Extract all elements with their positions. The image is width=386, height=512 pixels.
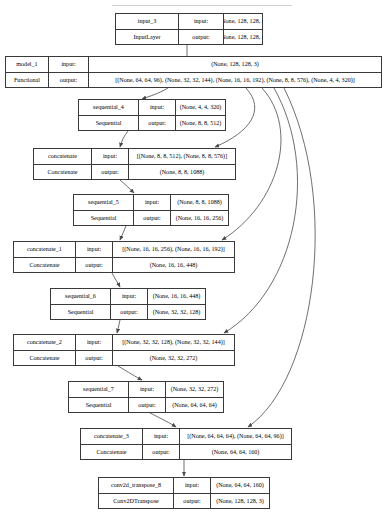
edge-sequential_5-to-concatenate_1	[120, 226, 126, 240]
node-model_1: model_1input:(None, 128, 128, 3)Function…	[5, 56, 382, 88]
node-class-name: InputLayer	[116, 30, 179, 45]
node-class-name: Sequential	[74, 211, 134, 226]
input-label: input:	[76, 242, 113, 257]
node-input_3: input_3input:[(None, 128, 128, 3)]InputL…	[115, 13, 263, 45]
node-layer-name: concatenate_3	[81, 429, 143, 444]
output-label: output:	[139, 116, 176, 131]
node-class-name: Sequential	[51, 305, 111, 320]
output-shape: [(None, 128, 128, 3)]	[224, 30, 262, 45]
node-concatenate_2: concatenate_2input:[(None, 32, 32, 128),…	[13, 334, 235, 366]
cropped-toolbar-sliver	[0, 0, 386, 7]
input-label: input:	[111, 289, 148, 304]
node-class-name: Sequential	[69, 398, 129, 413]
node-layer-name: concatenate_1	[14, 242, 76, 257]
node-concatenate: concatenateinput:[(None, 8, 8, 512), (No…	[33, 148, 236, 180]
node-sequential_4: sequential_4input:(None, 4, 4, 320)Seque…	[78, 99, 226, 131]
node-row-output: Concatenateoutput:(None, 8, 8, 1088)	[34, 165, 235, 180]
node-layer-name: sequential_4	[79, 100, 139, 115]
output-label: output:	[179, 30, 224, 45]
node-sequential_6: sequential_6input:(None, 16, 16, 448)Seq…	[50, 288, 206, 320]
node-row-output: Sequentialoutput:(None, 16, 16, 256)	[74, 211, 228, 226]
node-layer-name: sequential_5	[74, 195, 134, 210]
node-row-input: conv2d_transpose_8input:(None, 64, 64, 1…	[99, 478, 269, 494]
node-row-input: concatenate_3input:[(None, 64, 64, 64), …	[81, 429, 291, 445]
edge-concatenate_2-to-sequential_7	[118, 366, 142, 380]
input-shape: (None, 128, 128, 3)	[89, 57, 381, 72]
output-label: output:	[129, 398, 166, 413]
edge-model_1-to-sequential_4	[142, 88, 168, 99]
node-conv2d_transpose_8: conv2d_transpose_8input:(None, 64, 64, 1…	[98, 477, 270, 509]
output-shape: (None, 8, 8, 1088)	[129, 165, 235, 180]
node-layer-name: model_1	[6, 57, 49, 72]
edge-concatenate-to-sequential_5	[120, 180, 134, 193]
cropped-toolbar-rule	[112, 5, 292, 6]
node-layer-name: conv2d_transpose_8	[99, 478, 174, 493]
output-label: output:	[111, 305, 148, 320]
input-label: input:	[76, 335, 113, 350]
node-row-output: Sequentialoutput:(None, 32, 32, 128)	[51, 305, 205, 320]
node-sequential_7: sequential_7input:(None, 32, 32, 272)Seq…	[68, 381, 224, 413]
node-row-input: sequential_5input:(None, 8, 8, 1088)	[74, 195, 228, 211]
node-class-name: Sequential	[79, 116, 139, 131]
output-shape: (None, 16, 16, 448)	[113, 258, 234, 273]
node-row-output: Concatenateoutput:(None, 16, 16, 448)	[14, 258, 234, 273]
node-row-output: Functionaloutput:[(None, 64, 64, 96), (N…	[6, 73, 381, 88]
node-row-output: Sequentialoutput:(None, 8, 8, 512)	[79, 116, 225, 131]
output-label: output:	[143, 445, 180, 460]
output-label: output:	[76, 258, 113, 273]
input-label: input:	[174, 478, 211, 493]
node-row-input: concatenate_2input:[(None, 32, 32, 128),…	[14, 335, 234, 351]
edge-model_1-to-concatenate_3	[248, 88, 315, 427]
node-row-input: concatenate_1input:[(None, 16, 16, 256),…	[14, 242, 234, 258]
node-class-name: Concatenate	[34, 165, 92, 180]
model-architecture-diagram: input_3input:[(None, 128, 128, 3)]InputL…	[0, 0, 386, 512]
edge-sequential_4-to-concatenate	[120, 131, 128, 147]
output-label: output:	[134, 211, 171, 226]
node-row-input: input_3input:[(None, 128, 128, 3)]	[116, 14, 262, 30]
input-shape: (None, 16, 16, 448)	[148, 289, 205, 304]
edge-concatenate_1-to-sequential_6	[112, 273, 120, 287]
output-shape: (None, 32, 32, 128)	[148, 305, 205, 320]
node-row-output: Concatenateoutput:(None, 32, 32, 272)	[14, 351, 234, 366]
input-label: input:	[179, 14, 224, 29]
input-label: input:	[49, 57, 89, 72]
node-row-input: model_1input:(None, 128, 128, 3)	[6, 57, 381, 73]
output-shape: [(None, 64, 64, 96), (None, 32, 32, 144)…	[89, 73, 381, 88]
input-shape: (None, 32, 32, 272)	[166, 382, 223, 397]
input-label: input:	[92, 149, 129, 164]
input-label: input:	[134, 195, 171, 210]
output-label: output:	[174, 494, 211, 509]
output-shape: (None, 16, 16, 256)	[171, 211, 228, 226]
output-shape: (None, 8, 8, 512)	[176, 116, 225, 131]
node-class-name: Functional	[6, 73, 49, 88]
input-label: input:	[139, 100, 176, 115]
node-row-input: concatenateinput:[(None, 8, 8, 512), (No…	[34, 149, 235, 165]
input-shape: (None, 8, 8, 1088)	[171, 195, 228, 210]
node-class-name: Concatenate	[81, 445, 143, 460]
node-row-output: Conv2DTransposeoutput:(None, 128, 128, 3…	[99, 494, 269, 509]
node-row-input: sequential_4input:(None, 4, 4, 320)	[79, 100, 225, 116]
output-shape: (None, 64, 64, 160)	[180, 445, 291, 460]
output-shape: (None, 128, 128, 3)	[211, 494, 269, 509]
node-row-output: InputLayeroutput:[(None, 128, 128, 3)]	[116, 30, 262, 45]
output-label: output:	[49, 73, 89, 88]
edge-sequential_6-to-concatenate_2	[117, 320, 120, 333]
node-concatenate_3: concatenate_3input:[(None, 64, 64, 64), …	[80, 428, 292, 460]
input-shape: (None, 4, 4, 320)	[176, 100, 225, 115]
node-row-output: Concatenateoutput:(None, 64, 64, 160)	[81, 445, 291, 460]
node-sequential_5: sequential_5input:(None, 8, 8, 1088)Sequ…	[73, 194, 229, 226]
node-layer-name: sequential_6	[51, 289, 111, 304]
node-row-output: Sequentialoutput:(None, 64, 64, 64)	[69, 398, 223, 413]
node-layer-name: sequential_7	[69, 382, 129, 397]
input-shape: [(None, 8, 8, 512), (None, 8, 8, 576)]	[129, 149, 235, 164]
node-layer-name: concatenate	[34, 149, 92, 164]
input-label: input:	[129, 382, 166, 397]
node-layer-name: input_3	[116, 14, 179, 29]
input-shape: [(None, 128, 128, 3)]	[224, 14, 262, 29]
output-shape: (None, 64, 64, 64)	[166, 398, 223, 413]
node-class-name: Concatenate	[14, 351, 76, 366]
edge-model_1-to-concatenate_2	[224, 88, 298, 333]
node-row-input: sequential_7input:(None, 32, 32, 272)	[69, 382, 223, 398]
input-shape: [(None, 16, 16, 256), (None, 16, 16, 192…	[113, 242, 234, 257]
node-row-input: sequential_6input:(None, 16, 16, 448)	[51, 289, 205, 305]
